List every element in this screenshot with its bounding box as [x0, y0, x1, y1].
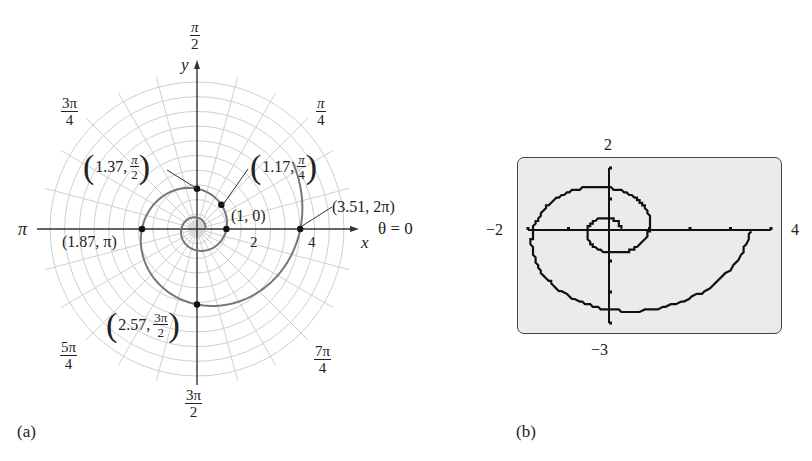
calc-y-tick	[609, 198, 612, 201]
calc-x-tick	[527, 227, 530, 230]
calc-spiral-curve	[530, 187, 751, 312]
calc-y-tick	[609, 260, 612, 263]
calc-x-tick	[567, 227, 570, 230]
calc-y-tick	[609, 167, 612, 170]
calc-x-tick	[689, 227, 692, 230]
calc-y-tick	[609, 291, 612, 294]
calc-y-tick	[609, 322, 612, 325]
calculator-graph	[0, 0, 812, 461]
calc-x-tick	[729, 227, 732, 230]
calc-x-tick	[770, 227, 773, 230]
